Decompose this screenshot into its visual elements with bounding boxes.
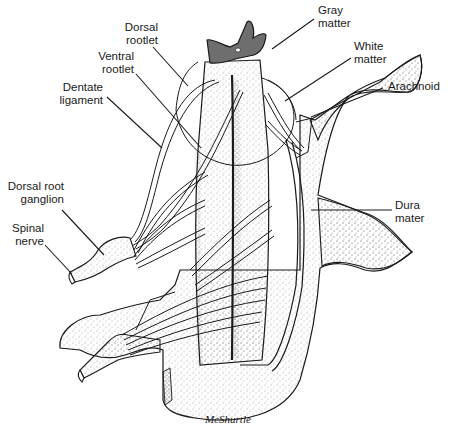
artist-signature: McShurtle — [204, 413, 251, 425]
label-arachnoid: Arachnoid — [388, 80, 440, 93]
leader-white-matter — [285, 58, 351, 101]
leader-ventral-rootlet — [136, 74, 201, 148]
leader-arachnoid — [311, 88, 383, 117]
label-gray-matter: Gray matter — [318, 4, 351, 29]
label-spinal-nerve: Spinal nerve — [8, 222, 44, 247]
leader-dentate-ligament — [107, 97, 162, 148]
label-dura-mater: Dura mater — [395, 199, 424, 224]
leader-spinal-nerve — [45, 245, 72, 274]
gray-matter — [207, 21, 266, 63]
dura-cut-edge — [163, 368, 172, 405]
label-dentate-ligament: Dentate ligament — [55, 81, 103, 106]
right-rootlets — [264, 93, 304, 155]
label-white-matter: White matter — [354, 40, 387, 65]
leader-dorsal-root-ganglion — [62, 210, 104, 255]
leader-dorsal-rootlet — [153, 47, 188, 86]
spinal-cord-illustration: McShurtle — [0, 0, 457, 439]
label-dorsal-rootlet: Dorsal rootlet — [113, 21, 158, 46]
dorsal-root-ganglion — [70, 237, 136, 282]
leader-gray-matter — [272, 19, 314, 49]
label-dorsal-root-ganglion: Dorsal root ganglion — [2, 180, 64, 205]
label-ventral-rootlet: Ventral rootlet — [88, 50, 134, 75]
